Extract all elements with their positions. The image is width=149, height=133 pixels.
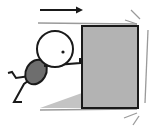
box: [82, 26, 138, 108]
ground-wedge: [40, 93, 82, 108]
eye: [61, 50, 64, 53]
arrow-right-icon: [40, 7, 83, 14]
head: [37, 31, 73, 67]
stick-figure: [8, 31, 80, 102]
push-box-illustration: [0, 0, 149, 133]
illustration-canvas: [0, 0, 149, 133]
